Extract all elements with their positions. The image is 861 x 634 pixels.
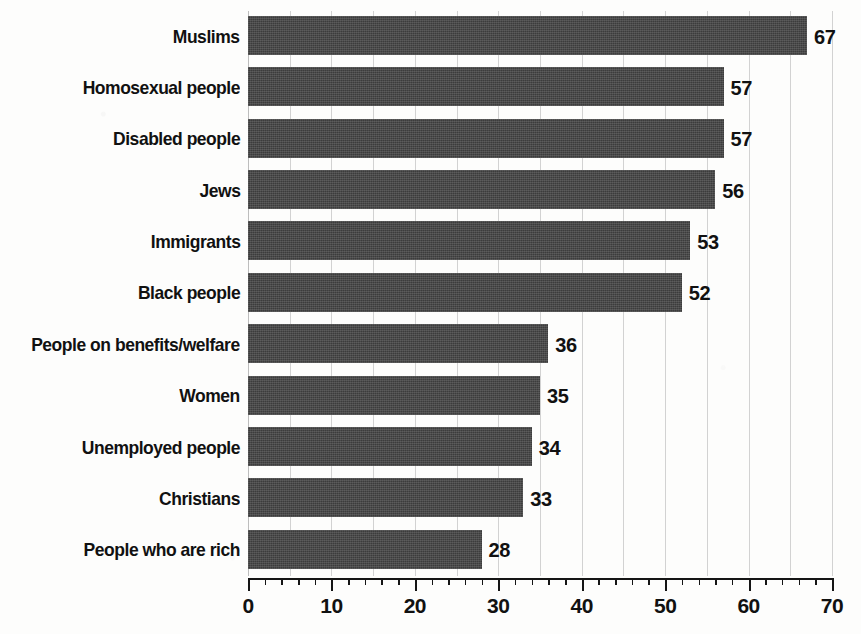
bar-value-label: 33 [530,487,551,510]
x-tick-36 [548,578,550,585]
x-tick-28 [482,578,484,585]
x-tick-52 [682,578,684,585]
category-label: Immigrants [150,216,240,267]
x-tick-12 [348,578,350,585]
x-tick-32 [515,578,517,585]
x-axis [248,578,832,592]
bar-row: 57 [248,62,832,113]
bar [248,273,682,312]
bar-value-label: 52 [689,282,710,305]
x-tick-6 [298,578,300,585]
bar-row: 33 [248,473,832,524]
category-label: Disabled people [113,114,240,165]
bar-value-label: 53 [697,231,718,254]
bar [248,67,724,106]
bar [248,324,548,363]
bar [248,530,482,569]
x-tick-10 [331,578,333,591]
x-tick-70 [832,578,834,591]
bar [248,16,807,55]
bar [248,376,540,415]
category-label: Muslims [173,11,240,62]
x-tick-62 [765,578,767,585]
x-tick-label: 40 [571,594,593,618]
bar-row: 67 [248,11,832,62]
category-label: Jews [199,165,240,216]
bar-value-label: 67 [814,25,835,48]
bar-row: 57 [248,114,832,165]
category-label: People who are rich [84,525,240,576]
x-tick-22 [432,578,434,585]
x-tick-34 [532,578,534,585]
x-tick-44 [615,578,617,585]
category-label: Christians [159,473,240,524]
x-tick-14 [365,578,367,585]
x-tick-label: 50 [654,594,676,618]
bar-row: 34 [248,422,832,473]
x-tick-16 [381,578,383,585]
x-tick-label: 60 [737,594,759,618]
bar-row: 53 [248,216,832,267]
category-label: People on benefits/welfare [31,319,240,370]
bar-row: 56 [248,165,832,216]
x-tick-64 [782,578,784,585]
bar [248,427,532,466]
bar-row: 36 [248,319,832,370]
category-label: Black people [138,268,240,319]
bar-value-label: 28 [489,539,510,562]
x-tick-24 [448,578,450,585]
bar [248,221,690,260]
x-tick-68 [815,578,817,585]
x-tick-54 [699,578,701,585]
x-tick-60 [749,578,751,591]
x-tick-18 [398,578,400,585]
x-tick-label: 70 [821,594,843,618]
x-tick-48 [648,578,650,585]
x-tick-66 [799,578,801,585]
x-tick-58 [732,578,734,585]
x-tick-20 [415,578,417,591]
x-tick-label: 30 [487,594,509,618]
bar-value-label: 56 [722,179,743,202]
category-axis-labels: MuslimsHomosexual peopleDisabled peopleJ… [0,11,240,576]
x-tick-label: 0 [242,594,253,618]
bar-value-label: 35 [547,385,568,408]
bar-value-label: 57 [731,77,752,100]
bar-value-label: 34 [539,436,560,459]
bar-row: 28 [248,525,832,576]
x-tick-40 [582,578,584,591]
bar [248,170,715,209]
x-tick-38 [565,578,567,585]
x-tick-56 [715,578,717,585]
x-tick-26 [465,578,467,585]
bar-rows: 6757575653523635343328 [248,11,832,576]
gridline-70 [832,11,833,576]
x-tick-30 [498,578,500,591]
x-tick-4 [281,578,283,585]
x-tick-42 [598,578,600,585]
x-tick-50 [665,578,667,591]
bar-value-label: 57 [731,128,752,151]
bar-chart: MuslimsHomosexual peopleDisabled peopleJ… [0,0,861,634]
x-axis-tick-labels: 010203040506070 [248,594,832,626]
bar-row: 52 [248,268,832,319]
bar [248,119,724,158]
x-axis-line [248,578,832,580]
x-tick-2 [265,578,267,585]
plot-area: 6757575653523635343328 [248,11,832,576]
bar-row: 35 [248,371,832,422]
category-label: Unemployed people [82,422,240,473]
x-tick-8 [315,578,317,585]
x-tick-46 [632,578,634,585]
x-tick-label: 10 [320,594,342,618]
x-tick-label: 20 [404,594,426,618]
bar-value-label: 36 [555,333,576,356]
category-label: Homosexual people [83,62,240,113]
x-tick-0 [248,578,250,591]
category-label: Women [179,371,240,422]
bar [248,478,523,517]
